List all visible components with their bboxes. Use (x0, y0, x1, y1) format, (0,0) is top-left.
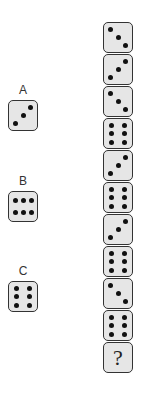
sequence-die (103, 310, 133, 341)
pip-icon (123, 219, 128, 224)
pip-icon (14, 294, 19, 299)
pip-icon (13, 198, 18, 203)
pip-icon (21, 113, 26, 118)
pip-icon (123, 155, 128, 160)
pip-icon (109, 259, 114, 264)
pip-icon (122, 323, 127, 328)
pip-icon (116, 67, 121, 72)
pip-icon (108, 235, 113, 240)
pip-icon (109, 140, 114, 145)
pip-icon (123, 43, 128, 48)
pip-icon (116, 163, 121, 168)
pip-icon (109, 131, 114, 136)
sequence-die (103, 118, 133, 149)
pip-icon (109, 251, 114, 256)
pip-icon (116, 291, 121, 296)
pip-icon (116, 99, 121, 104)
option-die-b[interactable] (8, 191, 38, 222)
sequence-die (103, 86, 133, 117)
pip-icon (109, 187, 114, 192)
pip-icon (123, 299, 128, 304)
pip-icon (122, 268, 127, 273)
option-label-b: B (8, 174, 38, 188)
pip-icon (14, 286, 19, 291)
option-die-c[interactable] (8, 281, 38, 312)
pip-icon (108, 27, 113, 32)
pip-icon (109, 315, 114, 320)
pip-icon (29, 198, 34, 203)
pip-icon (109, 123, 114, 128)
pip-icon (108, 91, 113, 96)
pip-icon (122, 251, 127, 256)
pip-icon (13, 121, 18, 126)
pip-icon (116, 35, 121, 40)
pip-icon (27, 294, 32, 299)
question-mark: ? (104, 345, 132, 371)
pip-icon (108, 75, 113, 80)
pip-icon (122, 195, 127, 200)
sequence-die (103, 246, 133, 277)
pip-icon (123, 59, 128, 64)
missing-die: ? (103, 342, 133, 373)
sequence-die (103, 214, 133, 245)
pip-icon (122, 204, 127, 209)
pip-icon (109, 332, 114, 337)
pip-icon (122, 131, 127, 136)
pip-icon (116, 227, 121, 232)
pip-icon (14, 303, 19, 308)
pip-icon (13, 210, 18, 215)
sequence-die (103, 278, 133, 309)
pip-icon (122, 315, 127, 320)
sequence-die (103, 150, 133, 181)
pip-icon (122, 259, 127, 264)
pip-icon (109, 195, 114, 200)
pip-icon (27, 286, 32, 291)
pip-icon (122, 140, 127, 145)
pip-icon (28, 105, 33, 110)
pip-icon (123, 107, 128, 112)
pip-icon (122, 187, 127, 192)
sequence-die (103, 182, 133, 213)
pip-icon (122, 332, 127, 337)
pip-icon (27, 303, 32, 308)
pip-icon (108, 171, 113, 176)
option-die-a[interactable] (8, 100, 38, 131)
pip-icon (109, 268, 114, 273)
pip-icon (29, 210, 34, 215)
option-label-c: C (8, 264, 38, 278)
option-label-a: A (8, 83, 38, 97)
pip-icon (122, 123, 127, 128)
sequence-die (103, 54, 133, 85)
pip-icon (109, 204, 114, 209)
pip-icon (21, 198, 26, 203)
pip-icon (21, 210, 26, 215)
sequence-die (103, 22, 133, 53)
pip-icon (109, 323, 114, 328)
pip-icon (108, 283, 113, 288)
